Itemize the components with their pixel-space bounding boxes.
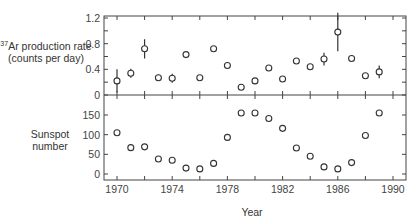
sunspot-data-point (266, 116, 272, 122)
argon-data-point (155, 75, 161, 81)
argon-data-point (376, 69, 382, 75)
y-tick-label: 150 (82, 109, 100, 121)
sunspot-data-point (362, 132, 368, 138)
argon-data-point (183, 52, 189, 58)
argon-data-point (197, 75, 203, 81)
argon-data-point (142, 46, 148, 52)
argon-data-point (238, 84, 244, 90)
sunspot-data-point (238, 110, 244, 116)
sunspot-data-point (376, 110, 382, 116)
argon-data-point (349, 55, 355, 61)
argon-data-point (321, 56, 327, 62)
x-tick-label: 1974 (161, 183, 185, 195)
y-tick-label: 0.8 (85, 38, 100, 50)
argon-data-point (128, 70, 134, 76)
y-tick-label: 0 (94, 89, 100, 101)
x-tick-label: 1986 (326, 183, 350, 195)
sunspot-data-point (252, 110, 258, 116)
argon-data-point (280, 76, 286, 82)
sunspot-data-point (197, 166, 203, 172)
sunspot-data-point (321, 164, 327, 170)
y-tick-label: 50 (88, 148, 100, 160)
argon-data-point (293, 58, 299, 64)
y-tick-label: 0.4 (85, 63, 100, 75)
argon-data-point (266, 65, 272, 71)
y-tick-label: 100 (82, 129, 100, 141)
sunspot-data-point (211, 160, 217, 166)
sunspot-data-point (335, 166, 341, 172)
x-tick-label: 1982 (271, 183, 295, 195)
chart-canvas: 19701974197819821986199000.40.81.2050100… (0, 0, 416, 222)
argon-data-point (335, 29, 341, 35)
sunspot-data-point (155, 156, 161, 162)
sunspot-data-point (349, 160, 355, 166)
x-tick-label: 1978 (216, 183, 240, 195)
argon-data-point (224, 62, 230, 68)
sunspot-data-point (293, 145, 299, 151)
sunspot-data-point (169, 157, 175, 163)
argon-data-point (169, 75, 175, 81)
argon-data-point (307, 64, 313, 70)
y-tick-label: 1.2 (85, 12, 100, 24)
argon-data-point (211, 46, 217, 52)
sunspot-data-point (280, 125, 286, 131)
x-tick-label: 1990 (381, 183, 405, 195)
sunspot-data-point (307, 153, 313, 159)
sunspot-data-point (183, 165, 189, 171)
argon-data-point (252, 78, 258, 84)
x-tick-label: 1970 (105, 183, 129, 195)
argon-data-point (362, 73, 368, 79)
sunspot-data-point (114, 130, 120, 136)
sunspot-data-point (142, 144, 148, 150)
sunspot-data-point (128, 145, 134, 151)
y-tick-label: 0 (94, 168, 100, 180)
sunspot-data-point (224, 134, 230, 140)
argon-data-point (114, 78, 120, 84)
